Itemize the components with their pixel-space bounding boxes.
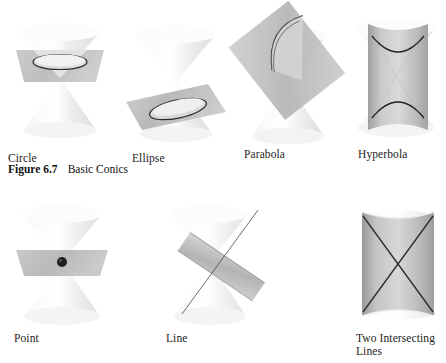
conic-panel-point: Point (8, 196, 120, 330)
conic-label-two-intersecting-lines: Two Intersecting Lines (356, 332, 435, 358)
conic-panel-ellipse: Ellipse (120, 8, 232, 144)
conic-label-line: Line (166, 332, 187, 345)
conic-panel-line: Line (160, 196, 276, 330)
conic-label-parabola: Parabola (244, 148, 285, 161)
conic-panel-parabola: Parabola (236, 4, 342, 144)
conic-label-point: Point (14, 332, 39, 345)
conic-label-ellipse: Ellipse (132, 152, 165, 165)
figure-caption-title: Basic Conics (68, 163, 128, 175)
double-cone-horizontal-plane-icon (6, 8, 114, 144)
double-cone-steep-plane-icon (236, 4, 342, 144)
double-cone-axial-plane-icon (352, 198, 444, 330)
conic-panel-hyperbola: Hyperbola (350, 6, 446, 144)
conic-label-hyperbola: Hyperbola (358, 148, 407, 161)
figure-6-7-basic-conics: Circle (0, 0, 446, 363)
double-cone-apex-plane-icon (8, 196, 120, 330)
figure-caption-number: Figure 6.7 (8, 163, 58, 175)
double-cone-tangent-plane-icon (160, 196, 276, 330)
conic-panel-circle: Circle (6, 8, 114, 144)
double-cone-vertical-plane-icon (350, 6, 446, 144)
figure-caption: Figure 6.7Basic Conics (8, 162, 128, 176)
conic-panel-two-intersecting-lines: Two Intersecting Lines (352, 198, 444, 330)
double-cone-tilted-plane-icon (120, 8, 232, 144)
